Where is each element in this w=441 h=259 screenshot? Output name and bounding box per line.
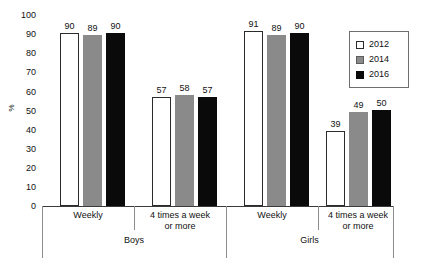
bar-boys-weekly-2016: 90 [106, 33, 125, 206]
legend: 2012 2014 2016 [349, 31, 409, 88]
group-label-boys: Boys [42, 235, 226, 246]
bar-value-boys-weekly-2014: 89 [87, 24, 97, 33]
category-label-boys-weekly: Weekly [42, 210, 134, 221]
bar-value-boys-weekly-2016: 90 [110, 22, 120, 31]
bar-chart: % 100 90 80 70 60 50 40 30 20 10 0 90 89… [0, 0, 441, 259]
legend-item-2014[interactable]: 2014 [356, 52, 402, 67]
bar-value-girls-weekly-2016: 90 [294, 22, 304, 31]
plot-area: 90 89 90 57 58 57 91 [42, 14, 394, 206]
y-tick-50: 50 [10, 107, 36, 116]
bar-value-boys-weekly-2012: 90 [64, 22, 74, 31]
legend-label-2014: 2014 [369, 55, 389, 64]
bar-boys-four-2016: 57 [198, 97, 217, 206]
legend-swatch-2016-icon [356, 71, 364, 79]
bar-girls-four-2014: 49 [349, 112, 368, 206]
bar-value-boys-four-2012: 57 [156, 86, 166, 95]
bar-girls-weekly-2016: 90 [290, 33, 309, 206]
bar-value-girls-four-2016: 50 [376, 99, 386, 108]
bar-girls-four-2012: 39 [326, 131, 345, 206]
y-tick-90: 90 [10, 30, 36, 39]
category-label-boys-four-times: 4 times a week or more [134, 210, 226, 232]
y-tick-0: 0 [10, 202, 36, 211]
category-label-girls-four-line1: 4 times a week [318, 210, 398, 221]
y-tick-30: 30 [10, 145, 36, 154]
bar-girls-weekly-2014: 89 [267, 35, 286, 206]
bar-group-boys-four-times: 57 58 57 [152, 14, 218, 206]
y-tick-60: 60 [10, 88, 36, 97]
y-tick-10: 10 [10, 183, 36, 192]
bar-boys-weekly-2012: 90 [60, 33, 79, 206]
y-tick-100: 100 [10, 11, 36, 20]
bar-value-boys-four-2014: 58 [179, 84, 189, 93]
bar-value-girls-weekly-2012: 91 [248, 20, 258, 29]
category-label-boys-weekly-line1: Weekly [42, 210, 134, 221]
bar-boys-four-2012: 57 [152, 97, 171, 206]
bar-girls-weekly-2012: 91 [244, 31, 263, 206]
legend-swatch-2014-icon [356, 56, 364, 64]
bar-boys-weekly-2014: 89 [83, 35, 102, 206]
category-label-girls-four-line2: or more [318, 221, 398, 232]
bar-boys-four-2014: 58 [175, 95, 194, 206]
legend-item-2016[interactable]: 2016 [356, 67, 402, 82]
category-label-girls-four-times: 4 times a week or more [318, 210, 398, 232]
legend-item-2012[interactable]: 2012 [356, 37, 402, 52]
legend-swatch-2012-icon [356, 41, 364, 49]
category-label-girls-weekly-line1: Weekly [226, 210, 318, 221]
bar-value-girls-weekly-2014: 89 [271, 24, 281, 33]
bar-value-girls-four-2014: 49 [353, 101, 363, 110]
legend-label-2012: 2012 [369, 40, 389, 49]
category-label-boys-four-line1: 4 times a week [134, 210, 226, 221]
bar-value-boys-four-2016: 57 [202, 86, 212, 95]
bar-group-boys-weekly: 90 89 90 [60, 14, 126, 206]
category-axis: Weekly 4 times a week or more Weekly 4 t… [42, 206, 394, 259]
category-label-boys-four-line2: or more [134, 221, 226, 232]
group-label-girls: Girls [226, 235, 393, 246]
bar-group-girls-weekly: 91 89 90 [244, 14, 310, 206]
y-tick-20: 20 [10, 164, 36, 173]
bar-girls-four-2016: 50 [372, 110, 391, 206]
legend-label-2016: 2016 [369, 70, 389, 79]
bar-value-girls-four-2012: 39 [330, 120, 340, 129]
y-axis-tick-labels: 100 90 80 70 60 50 40 30 20 10 0 [4, 0, 36, 259]
y-tick-70: 70 [10, 68, 36, 77]
y-tick-40: 40 [10, 126, 36, 135]
y-tick-80: 80 [10, 49, 36, 58]
category-label-girls-weekly: Weekly [226, 210, 318, 221]
